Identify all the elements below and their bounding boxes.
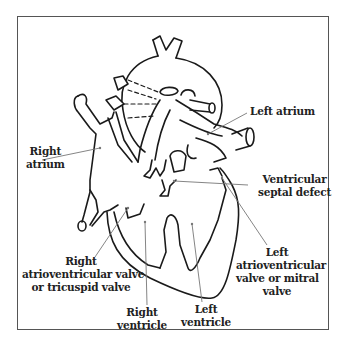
pointer-vsd [174,181,248,185]
label-text: Right [26,145,65,158]
pointer-lv [192,224,202,302]
aortic-arch-right [176,58,222,128]
label-right-ventricle: Right ventricle [117,306,167,332]
label-text: atrioventricular [236,259,318,272]
label-text: atrioventricular valve [22,268,140,281]
label-text: Left [181,303,231,316]
pointer-tricuspid [95,208,128,257]
label-text: atrium [26,158,65,171]
label-right-atrium: Right atrium [26,145,65,171]
label-text: Left atrium [250,105,315,117]
label-text: valve or mitral [236,272,318,285]
label-tricuspid-valve: Right atrioventricular valve or tricuspi… [22,255,140,294]
label-left-atrium: Left atrium [250,105,315,118]
label-text: Right [117,306,167,319]
label-text: Ventricular [258,173,331,186]
label-text: ventricle [181,316,231,329]
label-ventricular-septal-defect: Ventricular septal defect [258,173,331,199]
label-text: Left [236,246,318,259]
label-text: Right [22,255,140,268]
label-mitral-valve: Left atrioventricular valve or mitral va… [236,246,318,298]
label-text: septal defect [258,186,331,199]
label-text: valve [236,285,318,298]
label-text: ventricle [117,319,167,332]
label-text: or tricuspid valve [22,281,140,294]
label-left-ventricle: Left ventricle [181,303,231,329]
